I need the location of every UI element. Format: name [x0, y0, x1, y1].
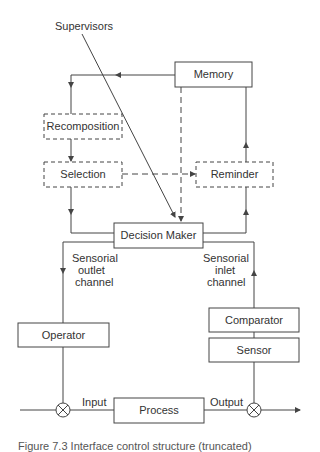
edge-memory-recomposition [71, 75, 175, 114]
operator-box: Operator [18, 323, 109, 347]
edge-decision-reminder [203, 187, 246, 233]
reminder-label: Reminder [211, 168, 259, 180]
sensor-label: Sensor [237, 344, 272, 356]
arrow-down-icon [68, 82, 74, 88]
sensor-box: Sensor [209, 338, 299, 362]
reminder-box: Reminder [196, 162, 273, 187]
decision-maker-label: Decision Maker [121, 229, 197, 241]
figure-caption: Figure 7.3 Interface control structure (… [18, 440, 252, 452]
arrow-up-icon [243, 209, 249, 215]
recomposition-label: Recomposition [47, 120, 120, 132]
selection-label: Selection [60, 168, 105, 180]
memory-label: Memory [194, 68, 234, 80]
selection-box: Selection [44, 162, 122, 187]
inlet-channel-label-2: inlet [215, 264, 235, 276]
inlet-channel-label-1: Sensorial [203, 252, 249, 264]
process-label: Process [139, 404, 179, 416]
outlet-channel-label-1: Sensorial [72, 252, 118, 264]
process-box: Process [114, 398, 204, 423]
comparator-label: Comparator [225, 314, 283, 326]
arrow-up-icon [243, 142, 249, 148]
memory-box: Memory [175, 62, 252, 87]
recomposition-box: Recomposition [44, 114, 122, 139]
operator-label: Operator [42, 329, 86, 341]
arrow-down-icon [68, 209, 74, 215]
output-label: Output [210, 396, 243, 408]
arrow-down-icon [60, 268, 66, 274]
outlet-channel-label-2: outlet [78, 264, 105, 276]
input-label: Input [82, 396, 106, 408]
arrow-up-icon [251, 270, 257, 276]
inlet-channel-label-3: channel [207, 276, 246, 288]
arrow-left-icon [115, 72, 121, 78]
outlet-channel-label-3: channel [75, 276, 114, 288]
comparator-box: Comparator [209, 308, 299, 332]
decision-maker-box: Decision Maker [114, 223, 203, 248]
output-junction-icon [247, 403, 261, 417]
input-junction-icon [56, 403, 70, 417]
supervisors-label: Supervisors [55, 20, 114, 32]
edge-selection-decision [71, 187, 114, 233]
